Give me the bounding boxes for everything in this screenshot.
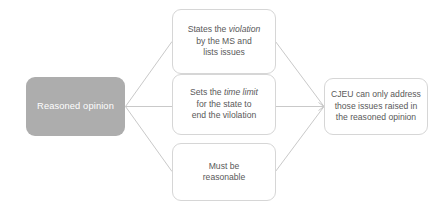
- node-time-limit-label: Sets the time limitfor the state toend t…: [173, 87, 275, 121]
- node-cjeu-scope-line2: those issues raised in: [335, 101, 418, 111]
- connector-reasonable-to-cjeu: [276, 107, 325, 172]
- node-time-limit-line2: for the state to: [197, 99, 252, 109]
- connector-states-violation-to-cjeu: [276, 42, 325, 107]
- node-cjeu-scope[interactable]: CJEU can only addressthose issues raised…: [324, 78, 428, 135]
- node-states-violation-label: States the violationby the MS andlists i…: [173, 24, 275, 58]
- node-time-limit-line3: end the vilolation: [192, 110, 257, 120]
- node-time-limit-line1-emphasis: time limit: [224, 87, 258, 97]
- diagram-canvas: Reasoned opinion States the violationby …: [0, 0, 443, 212]
- node-states-violation-line1-prefix: States the: [188, 24, 229, 34]
- node-states-violation[interactable]: States the violationby the MS andlists i…: [172, 9, 276, 74]
- node-time-limit-line1-prefix: Sets the: [190, 87, 224, 97]
- node-cjeu-scope-line1: CJEU can only address: [331, 89, 421, 99]
- connector-source-to-states-violation: [126, 42, 173, 107]
- node-states-violation-line2: by the MS and: [196, 36, 251, 46]
- node-states-violation-line3: lists issues: [203, 47, 245, 57]
- node-reasonable-line2: Must be: [209, 161, 240, 171]
- node-cjeu-scope-line3: the reasoned opinion: [336, 112, 416, 122]
- node-cjeu-scope-label: CJEU can only addressthose issues raised…: [325, 89, 427, 123]
- node-states-violation-line1-emphasis: violation: [229, 24, 261, 34]
- node-reasonable-label: Must bereasonable: [173, 161, 275, 184]
- node-reasonable[interactable]: Must bereasonable: [172, 143, 276, 201]
- node-time-limit[interactable]: Sets the time limitfor the state toend t…: [172, 74, 276, 135]
- node-reasonable-line3: reasonable: [203, 172, 246, 182]
- connector-source-to-reasonable: [126, 107, 173, 172]
- node-reasoned-opinion[interactable]: Reasoned opinion: [26, 77, 125, 136]
- node-reasoned-opinion-label: Reasoned opinion: [26, 100, 125, 112]
